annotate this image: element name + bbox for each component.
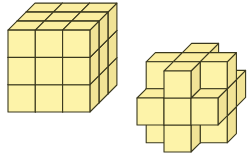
unit-cube-front-face [35, 57, 62, 84]
unit-cube-front-face [200, 62, 227, 89]
figure [0, 0, 251, 162]
unit-cube-front-face [63, 85, 90, 112]
unit-cube-front-face [35, 30, 62, 57]
unit-cube-front-face [164, 98, 191, 125]
solid-3x3x3-cube [8, 3, 117, 112]
unit-cube-front-face [137, 98, 164, 125]
cubes-illustration [0, 0, 251, 162]
unit-cube-front-face [8, 85, 35, 112]
unit-cube-front-face [63, 30, 90, 57]
unit-cube-front-face [164, 125, 191, 152]
cross-shaped-solid [137, 43, 246, 152]
unit-cube-front-face [35, 85, 62, 112]
unit-cube-front-face [164, 71, 191, 98]
unit-cube-front-face [8, 30, 35, 57]
unit-cube-front-face [8, 57, 35, 84]
unit-cube-front-face [191, 98, 218, 125]
unit-cube-front-face [63, 57, 90, 84]
